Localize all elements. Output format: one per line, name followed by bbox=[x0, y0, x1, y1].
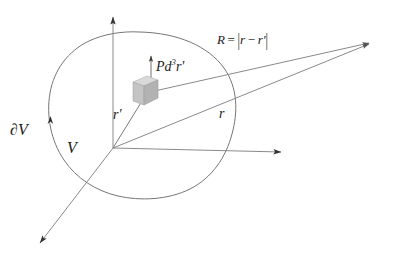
label-source-position: r' bbox=[113, 108, 121, 122]
separation-equals-sign: = bbox=[228, 32, 235, 47]
field-position-text: r bbox=[219, 106, 224, 121]
label-boundary-surface: ∂V bbox=[10, 122, 28, 138]
label-separation-equation: R = |r − r'| bbox=[217, 33, 268, 46]
source-prime-tick: ' bbox=[118, 107, 121, 122]
physics-vector-diagram: ∂V V r' r R = |r − r'| Pd3r' bbox=[0, 0, 395, 263]
boundary-orientation-arrow bbox=[48, 116, 54, 124]
dipole-prime-tick: ' bbox=[181, 59, 184, 74]
label-volume: V bbox=[67, 140, 77, 156]
dipole-d-symbol: d bbox=[165, 59, 172, 74]
diagram-canvas bbox=[0, 0, 395, 263]
axis-horizontal bbox=[113, 148, 281, 152]
label-dipole-moment: Pd3r' bbox=[156, 58, 184, 74]
dipole-P-symbol: P bbox=[156, 59, 165, 74]
boundary-surface-text: ∂V bbox=[10, 121, 28, 138]
boundary-surface-curve bbox=[49, 32, 236, 199]
cube-front-face bbox=[133, 82, 144, 105]
separation-minus-sign: − bbox=[248, 32, 255, 47]
separation-open-bar: | bbox=[238, 31, 240, 50]
axis-diagonal bbox=[40, 148, 113, 243]
separation-close-bar: | bbox=[265, 31, 267, 50]
label-field-position: r bbox=[219, 107, 224, 121]
separation-R-symbol: R bbox=[217, 32, 225, 47]
coordinate-axes bbox=[40, 17, 281, 243]
volume-text: V bbox=[67, 139, 77, 156]
volume-element-cube bbox=[133, 76, 158, 105]
